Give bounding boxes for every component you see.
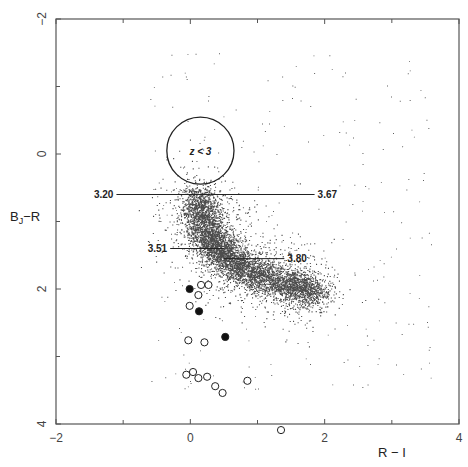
filled-circle-marker xyxy=(195,308,202,315)
y-tick-label: 4 xyxy=(35,420,49,427)
open-circle-marker xyxy=(277,426,284,433)
x-tick-label: 2 xyxy=(321,431,328,445)
marker-points xyxy=(183,281,285,433)
open-circle-marker xyxy=(205,281,212,288)
open-circle-marker xyxy=(204,373,211,380)
open-circle-marker xyxy=(219,389,226,396)
data-cloud xyxy=(139,53,432,389)
y-axis-title: BJ−R xyxy=(10,209,40,226)
track-label: 3.80 xyxy=(287,253,307,264)
track-label: 3.20 xyxy=(94,189,114,200)
open-circle-marker xyxy=(183,371,190,378)
open-circle-marker xyxy=(244,377,251,384)
open-circle-marker xyxy=(195,375,202,382)
track-label: 3.67 xyxy=(318,189,338,200)
y-tick-label: 2 xyxy=(35,285,49,292)
circle-label: z < 3 xyxy=(188,146,211,157)
x-tick-label: 4 xyxy=(456,431,463,445)
open-circle-marker xyxy=(195,291,202,298)
open-circle-marker xyxy=(197,281,204,288)
track-label: 3.51 xyxy=(148,243,168,254)
scatter-chart: 3.203.673.513.80 z < 3 −2024−2024 R − I … xyxy=(0,0,468,467)
redshift-circle: z < 3 xyxy=(167,117,234,184)
x-axis-title: R − I xyxy=(378,445,406,460)
open-circle-marker xyxy=(201,339,208,346)
filled-circle-marker xyxy=(186,285,193,292)
plot-frame xyxy=(56,19,459,424)
open-circle-marker xyxy=(189,368,196,375)
x-tick-label: 0 xyxy=(187,431,194,445)
y-tick-label: 0 xyxy=(35,150,49,157)
x-tick-label: −2 xyxy=(49,431,63,445)
open-circle-marker xyxy=(185,337,192,344)
open-circle-marker xyxy=(212,383,219,390)
y-tick-label: −2 xyxy=(35,12,49,26)
open-circle-marker xyxy=(186,302,193,309)
filled-circle-marker xyxy=(222,333,229,340)
